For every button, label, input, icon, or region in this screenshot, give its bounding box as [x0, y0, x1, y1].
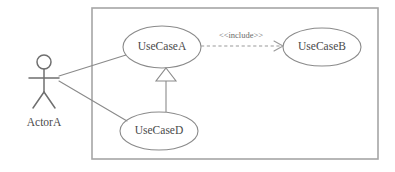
include-relationship-a-to-b[interactable]: <<include>>: [201, 30, 283, 51]
actor-actor-a[interactable]: ActorA: [27, 55, 62, 128]
use-case-d-label: UseCaseD: [135, 124, 184, 136]
use-case-use-case-d[interactable]: UseCaseD: [120, 112, 198, 150]
use-case-a-label: UseCaseA: [138, 40, 187, 52]
actor-head-icon: [37, 55, 51, 69]
include-stereotype-label: <<include>>: [219, 30, 263, 40]
generalization-hollow-triangle-icon: [156, 68, 176, 81]
actor-right-leg-icon: [44, 92, 55, 108]
uml-diagram-svg: ActorA UseCaseA UseCaseB UseCaseD <<incl…: [0, 0, 395, 172]
actor-left-leg-icon: [33, 92, 44, 108]
use-case-use-case-a[interactable]: UseCaseA: [123, 26, 201, 68]
use-case-use-case-b[interactable]: UseCaseB: [283, 28, 361, 66]
actor-label: ActorA: [27, 116, 62, 128]
use-case-b-label: UseCaseB: [298, 40, 346, 52]
generalization-relationship-d-to-a[interactable]: [156, 68, 176, 112]
association-actor-a-usecase-d[interactable]: [59, 81, 127, 121]
use-case-diagram-canvas: ActorA UseCaseA UseCaseB UseCaseD <<incl…: [0, 0, 395, 172]
